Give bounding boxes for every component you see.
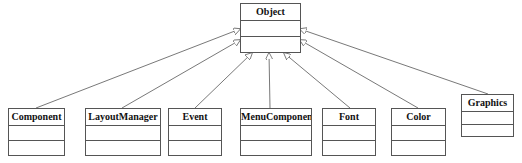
class-attributes [241,126,311,141]
class-graphics: Graphics [461,94,514,137]
class-name: Color [392,109,445,126]
class-attributes [323,126,375,141]
class-attributes [241,21,300,37]
class-name: Event [169,109,221,126]
class-attributes [392,126,445,141]
class-name: Object [241,4,300,21]
class-menucomponent: MenuComponent [240,108,312,156]
edge-menucomponent [269,53,270,108]
edge-font [284,53,350,108]
edge-component [36,29,240,108]
class-component: Component [8,108,65,156]
class-attributes [169,126,221,141]
edge-layoutmanager [122,40,240,108]
class-layoutmanager: LayoutManager [85,108,161,156]
class-event: Event [168,108,222,156]
class-font: Font [322,108,376,156]
class-attributes [86,126,160,141]
class-color: Color [391,108,446,156]
class-object: Object [240,3,301,53]
class-name: Component [9,109,64,126]
edge-color [300,40,418,108]
class-attributes [9,126,64,141]
class-attributes [462,112,513,125]
class-name: LayoutManager [86,109,160,126]
class-name: Font [323,109,375,126]
class-name: MenuComponent [241,109,311,126]
edge-graphics [300,29,488,94]
class-name: Graphics [462,95,513,112]
